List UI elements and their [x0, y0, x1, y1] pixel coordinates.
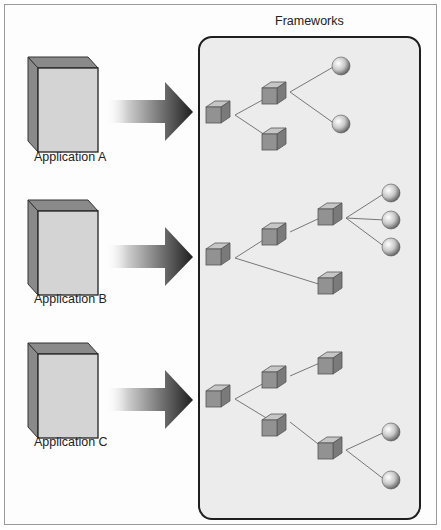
- application-b-box: [28, 200, 98, 295]
- sphere-icon: [382, 423, 400, 441]
- sphere-icon: [382, 184, 400, 202]
- application-a-label: Application A: [34, 150, 106, 164]
- sphere-icon: [382, 238, 400, 256]
- sphere-icon: [332, 115, 350, 133]
- arrow-c-icon: [105, 370, 193, 429]
- arrow-b-icon: [105, 227, 193, 286]
- application-a-box: [28, 57, 98, 152]
- application-b-label: Application B: [34, 292, 107, 306]
- frameworks-panel: [199, 37, 420, 519]
- application-c-box: [28, 343, 98, 438]
- architecture-diagram: [0, 0, 441, 530]
- application-c-label: Application C: [34, 435, 108, 449]
- sphere-icon: [382, 211, 400, 229]
- frameworks-title: Frameworks: [275, 14, 344, 28]
- sphere-icon: [332, 57, 350, 75]
- arrow-a-icon: [105, 82, 193, 141]
- sphere-icon: [382, 471, 400, 489]
